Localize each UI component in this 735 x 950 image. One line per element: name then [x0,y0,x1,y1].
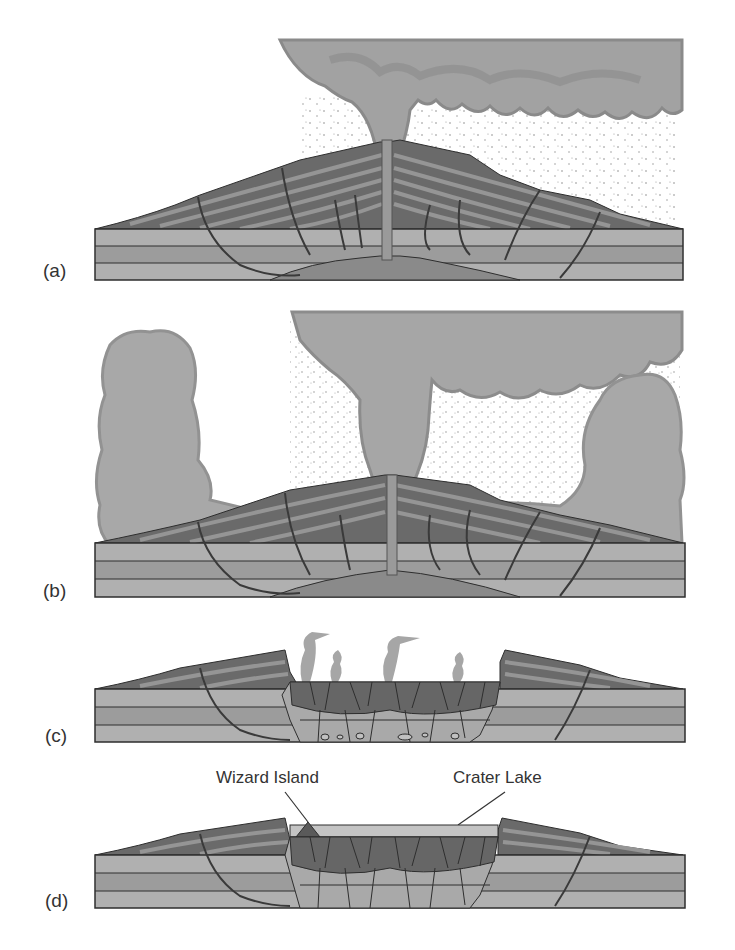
caldera-rim-left [95,818,300,855]
leader-line-wizard-island [285,792,308,822]
panel-label-c: (c) [45,725,67,747]
panel-b: (b) [0,300,735,610]
pyroclastic-flow-illustration [0,300,735,610]
caldera-rim-left [95,650,300,689]
panel-d: Wizard Island Crater Lake (d) [0,760,735,920]
caldera-collapse-illustration [0,610,735,750]
crater-lake-illustration [0,760,735,920]
panel-a: (a) [0,0,735,300]
crater-lake [290,825,498,837]
panel-label-a: (a) [43,260,66,282]
steam-vents [301,632,464,682]
leader-line-crater-lake [458,792,505,825]
panel-c: (c) [0,610,735,750]
central-vent [387,475,397,575]
eruption-column-illustration [0,0,735,300]
panel-label-b: (b) [43,580,66,602]
caldera-rim-right [500,650,683,689]
central-vent [382,140,392,260]
panel-label-d: (d) [45,890,68,912]
